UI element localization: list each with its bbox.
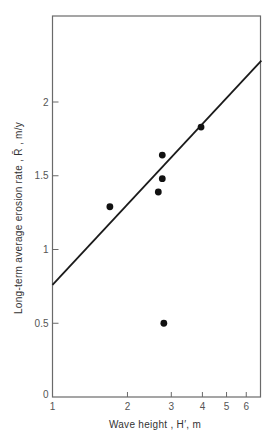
data-point [159,152,166,159]
y-tick-label: 2 [43,97,49,108]
data-point [160,320,167,327]
data-point [198,124,205,131]
y-tick-label: 1.5 [35,170,49,181]
x-axis-label: Wave height , H′, m [109,419,201,430]
y-axis-ticks: 00.511.52 [35,97,59,401]
y-axis-label: Long-term average erosion rate , R̄ , m/… [12,122,24,314]
data-point [159,175,166,182]
data-points [106,124,204,327]
y-tick-label: 0.5 [35,318,49,329]
x-axis-ticks: 123456 [50,392,250,412]
data-point [106,203,113,210]
x-tick-label: 4 [200,401,206,412]
x-tick-label: 5 [224,401,230,412]
x-tick-label: 3 [169,401,175,412]
fit-line-group [53,61,262,285]
data-point [155,189,162,196]
x-tick-label: 1 [50,401,56,412]
y-tick-label: 1 [43,244,49,255]
y-tick-label: 0 [43,389,49,400]
chart: 123456 00.511.52 Wave height , H′, m Lon… [0,0,273,441]
plot-frame [53,16,261,397]
x-tick-label: 6 [243,401,249,412]
fit-line [53,61,262,285]
x-tick-label: 2 [125,401,131,412]
